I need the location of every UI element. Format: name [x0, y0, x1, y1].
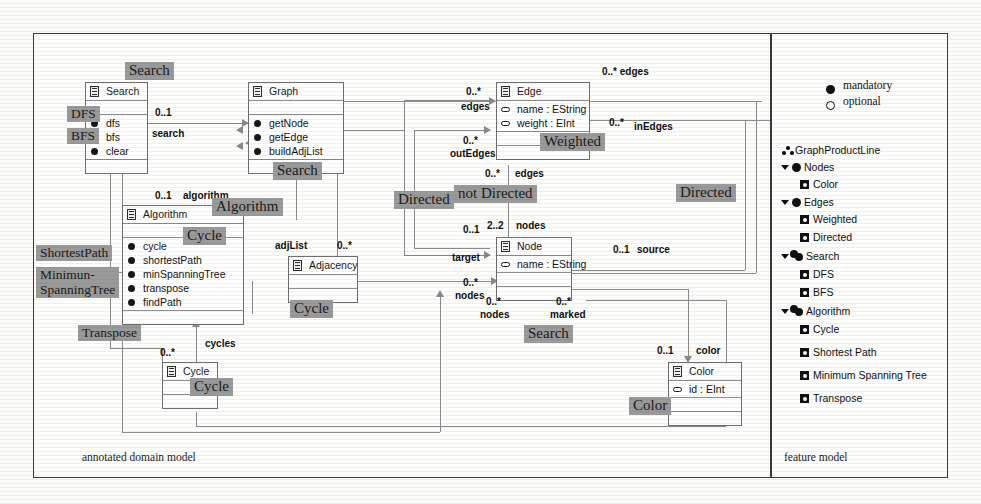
optional-icon	[800, 233, 809, 242]
feature-item-graphproductline[interactable]: GraphProductLine	[795, 144, 880, 156]
label-outedges-mult: 0..*	[463, 135, 478, 146]
connector-cycle-left	[110, 348, 162, 349]
annotation-cycle-cls[interactable]: Cycle	[190, 378, 233, 396]
feature-item-transpose[interactable]: Transpose	[813, 392, 862, 404]
arrowhead-graph-left-2	[236, 142, 243, 150]
operation-dot-icon	[128, 285, 135, 292]
annotation-algorithm[interactable]: Algorithm	[212, 198, 283, 216]
attribute-row: id : EInt	[669, 382, 741, 396]
class-algorithm[interactable]: Algorithm cycle shortestPath minSpanning…	[122, 205, 244, 325]
connector-outedges-h2	[414, 130, 490, 131]
legend-optional-ring-icon	[826, 101, 835, 110]
operation-dot-icon	[254, 120, 261, 127]
connector-node-color-v	[688, 289, 689, 360]
connector-target-h2	[414, 248, 490, 249]
feature-item-shortest-path[interactable]: Shortest Path	[813, 346, 877, 358]
annotation-weighted[interactable]: Weighted	[540, 133, 605, 151]
class-node-attributes: name : EString	[497, 256, 571, 273]
feature-item-minimum-spanning-tree[interactable]: Minimum Spanning Tree	[813, 369, 927, 381]
feature-item-directed[interactable]: Directed	[813, 231, 852, 243]
annotated-domain-model-caption: annotated domain model	[82, 451, 196, 463]
label-source-role: source	[637, 244, 670, 255]
legend-mandatory-dot-icon	[826, 85, 835, 94]
label-outedges-role: outEdges	[450, 148, 496, 159]
arrowhead-target	[484, 251, 491, 259]
expander-nodes-icon[interactable]	[781, 165, 789, 170]
connector-search-marked-h	[122, 432, 440, 433]
optional-icon	[800, 348, 809, 357]
label-source-mult: 0..1	[613, 244, 630, 255]
label-nodes-l-role: nodes	[455, 290, 484, 301]
annotation-cycle-alg[interactable]: Cycle	[183, 227, 226, 245]
expander-edges-icon[interactable]	[781, 200, 789, 205]
label-algorithm-mult: 0..1	[155, 190, 172, 201]
class-color-operations	[669, 398, 741, 412]
class-node[interactable]: Node name : EString	[496, 237, 572, 301]
label-nodes-l-mult: 0..*	[463, 277, 478, 288]
annotation-shortestpath[interactable]: ShortestPath	[36, 245, 112, 261]
annotation-color[interactable]: Color	[629, 397, 671, 415]
optional-icon	[800, 325, 809, 334]
diagram-canvas: annotated domain model feature model	[0, 0, 981, 504]
legend-mandatory-label: mandatory	[843, 79, 892, 91]
class-adjacency[interactable]: Adjacency	[288, 256, 358, 303]
attribute-row: weight : EInt	[497, 116, 589, 130]
arrowhead-graph-left-1	[236, 126, 243, 134]
connector-search-graph	[148, 123, 248, 124]
attribute-icon	[673, 387, 682, 392]
optional-icon	[800, 371, 809, 380]
label-marked-mult: 0..*	[556, 296, 571, 307]
label-nodes-b-role: nodes	[480, 309, 509, 320]
annotation-directed-right[interactable]: Directed	[676, 184, 736, 202]
feature-item-dfs[interactable]: DFS	[813, 268, 834, 280]
class-icon	[501, 86, 510, 97]
class-color-name: Color	[689, 365, 714, 377]
label-adjlist-mult: 0..*	[337, 240, 352, 251]
annotation-search-nodes[interactable]: Search	[524, 325, 573, 343]
group-icon	[790, 250, 804, 260]
feature-item-cycle[interactable]: Cycle	[813, 323, 839, 335]
operation-dot-icon	[128, 257, 135, 264]
mandatory-icon	[792, 163, 801, 172]
label-edges-mid-mult: 0..*	[485, 168, 500, 179]
expander-search-icon[interactable]	[781, 254, 789, 259]
operation-row: getNode	[249, 116, 343, 130]
annotation-dfs[interactable]: DFS	[67, 106, 100, 122]
feature-item-search[interactable]: Search	[806, 250, 839, 262]
operation-row: shortestPath	[123, 253, 243, 267]
attribute-row: name : EString	[497, 102, 589, 116]
operation-dot-icon	[128, 299, 135, 306]
feature-item-weighted[interactable]: Weighted	[813, 213, 857, 225]
class-algorithm-extra	[123, 311, 243, 324]
operation-row: clear	[86, 144, 147, 158]
class-search-extra	[86, 160, 147, 173]
annotation-bfs[interactable]: BFS	[67, 128, 99, 144]
class-adjacency-attributes	[289, 275, 357, 289]
feature-item-bfs[interactable]: BFS	[813, 286, 833, 298]
annotation-directed-left[interactable]: Directed	[394, 191, 454, 209]
annotation-notdirected[interactable]: not Directed	[454, 185, 537, 203]
group-icon	[790, 305, 804, 315]
label-target-role: target	[452, 252, 480, 263]
annotation-search-graph[interactable]: Search	[273, 162, 322, 180]
annotation-transpose[interactable]: Transpose	[78, 325, 141, 341]
arrowhead-graph-edge-top	[489, 97, 496, 105]
class-edge-header: Edge	[497, 83, 589, 101]
feature-item-color[interactable]: Color	[813, 178, 838, 190]
operation-row: buildAdjList	[249, 144, 343, 158]
class-color[interactable]: Color id : EInt	[668, 362, 742, 426]
label-search-role: search	[152, 128, 184, 139]
expander-algorithm-icon[interactable]	[781, 309, 789, 314]
feature-item-nodes[interactable]: Nodes	[804, 161, 834, 173]
annotation-search-top[interactable]: Search	[125, 62, 174, 80]
feature-item-edges[interactable]: Edges	[804, 196, 834, 208]
connector-source-h	[570, 270, 745, 271]
class-graph[interactable]: Graph getNode getEdge buildAdjList	[248, 82, 344, 174]
label-adjlist-role: adjList	[275, 240, 307, 251]
feature-model-caption: feature model	[784, 451, 848, 463]
connector-outedges-v	[404, 100, 405, 255]
annotation-cycle-adj[interactable]: Cycle	[290, 300, 333, 318]
label-color-mult: 0..1	[657, 345, 674, 356]
feature-item-algorithm[interactable]: Algorithm	[806, 305, 850, 317]
annotation-minspanningtree[interactable]: Minimun- SpanningTree	[36, 267, 119, 298]
